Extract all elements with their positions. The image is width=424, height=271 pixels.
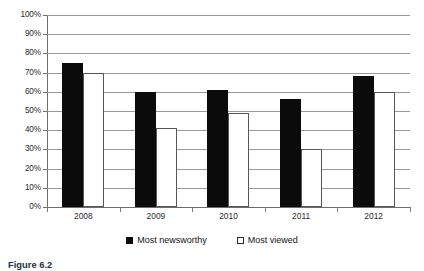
x-axis-tick-label: 2009 xyxy=(147,211,166,221)
filled-square-icon xyxy=(126,237,133,244)
y-axis-tick-label: 30% xyxy=(25,145,41,153)
chart-legend: Most newsworthyMost viewed xyxy=(0,232,424,248)
bar-group xyxy=(120,15,193,207)
y-axis-tick-label: 70% xyxy=(25,68,41,76)
y-axis-tick xyxy=(43,34,47,35)
y-axis-tick xyxy=(43,149,47,150)
y-axis-tick-label: 0% xyxy=(29,203,41,211)
figure-caption: Figure 6.2 xyxy=(8,259,52,270)
bar-2011-newsworthy xyxy=(280,99,301,207)
y-axis-tick-label: 80% xyxy=(25,49,41,57)
x-axis-tick-labels: 20082009201020112012 xyxy=(47,211,410,227)
y-axis-tick xyxy=(43,188,47,189)
y-axis-tick xyxy=(43,130,47,131)
x-axis-tick-label: 2012 xyxy=(364,211,383,221)
bar-2010-viewed xyxy=(228,113,249,207)
bar-2012-newsworthy xyxy=(353,76,374,207)
bar-group xyxy=(265,15,338,207)
legend-label: Most viewed xyxy=(248,235,298,245)
bar-2010-newsworthy xyxy=(207,90,228,207)
y-axis-tick-labels: 0%10%20%30%40%50%60%70%80%90%100% xyxy=(0,0,44,215)
y-axis-tick-label: 10% xyxy=(25,184,41,192)
bar-2012-viewed xyxy=(374,92,395,207)
y-axis-tick xyxy=(43,92,47,93)
plot-canvas xyxy=(47,15,410,207)
legend-item: Most newsworthy xyxy=(126,235,207,245)
x-axis-tick xyxy=(410,207,411,212)
y-axis-tick-label: 60% xyxy=(25,88,41,96)
y-axis-tick xyxy=(43,169,47,170)
bar-group xyxy=(192,15,265,207)
bar-2009-newsworthy xyxy=(135,92,156,207)
y-axis-tick-label: 50% xyxy=(25,107,41,115)
legend-item: Most viewed xyxy=(237,235,298,245)
y-axis-tick-label: 40% xyxy=(25,126,41,134)
y-axis-tick-label: 100% xyxy=(20,11,41,19)
legend-label: Most newsworthy xyxy=(137,235,207,245)
bar-group xyxy=(47,15,120,207)
y-axis-tick xyxy=(43,73,47,74)
plot-area: 0%10%20%30%40%50%60%70%80%90%100% 200820… xyxy=(0,0,424,215)
bar-groups xyxy=(47,15,410,207)
y-axis-tick xyxy=(43,53,47,54)
x-axis-tick-label: 2011 xyxy=(292,211,310,221)
bar-2011-viewed xyxy=(301,149,322,207)
y-axis-tick xyxy=(43,15,47,16)
outlined-square-icon xyxy=(237,237,244,244)
y-axis-tick-label: 20% xyxy=(25,164,41,172)
bar-2008-viewed xyxy=(83,73,104,207)
bar-2009-viewed xyxy=(156,128,177,207)
bar-2008-newsworthy xyxy=(62,63,83,207)
chart-figure: 0%10%20%30%40%50%60%70%80%90%100% 200820… xyxy=(0,0,424,271)
x-axis-tick-label: 2008 xyxy=(74,211,93,221)
y-axis-tick xyxy=(43,111,47,112)
y-axis-tick-label: 90% xyxy=(25,30,41,38)
bar-group xyxy=(337,15,410,207)
x-axis-tick-label: 2010 xyxy=(219,211,238,221)
